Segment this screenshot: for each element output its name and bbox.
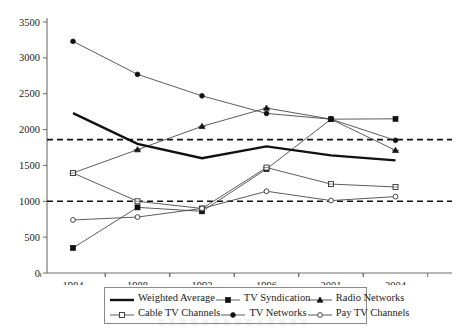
data-point-tv-syndication	[393, 116, 398, 121]
legend-label-tv-syndication: TV Syndication	[244, 292, 311, 304]
legend-swatch-weighted-average	[109, 292, 135, 304]
legend-label-weighted-average: Weighted Average	[138, 292, 215, 304]
y-tick-label: 0	[35, 268, 40, 279]
data-point-pay-tv-channels	[393, 194, 398, 199]
legend-swatch-radio-networks	[307, 292, 333, 304]
legend-label-tv-networks: TV Networks	[249, 307, 306, 319]
data-point-pay-tv-channels	[200, 206, 205, 211]
line-chart-svg: 0500100015002000250030003500198419881992…	[0, 0, 459, 285]
legend-item-pay-tv-channels: Pay TV Channels	[307, 307, 410, 319]
data-point-pay-tv-channels	[264, 189, 269, 194]
y-tick-label: 2500	[19, 88, 40, 99]
data-point-tv-networks	[135, 72, 140, 77]
y-tick-label: 3500	[19, 17, 40, 28]
data-point-tv-networks	[200, 93, 205, 98]
y-tick-label: 1000	[19, 196, 40, 207]
legend-row-1: Weighted Average TV Syndication Radio Ne…	[109, 290, 362, 305]
y-tick-label: 3000	[19, 52, 40, 63]
data-point-tv-syndication	[71, 245, 76, 250]
data-point-tv-networks	[264, 111, 269, 116]
x-tick-label: 1996	[256, 280, 277, 285]
legend-item-weighted-average: Weighted Average	[109, 292, 215, 304]
legend-swatch-tv-syndication	[215, 292, 241, 304]
legend-item-radio-networks: Radio Networks	[307, 292, 405, 304]
series-line-tv-syndication	[73, 119, 396, 248]
data-point-tv-networks	[71, 39, 76, 44]
plot-area: 0500100015002000250030003500198419881992…	[0, 0, 459, 285]
data-point-pay-tv-channels	[71, 218, 76, 223]
x-tick-label: 1992	[192, 280, 213, 285]
data-point-tv-networks	[393, 138, 398, 143]
data-point-pay-tv-channels	[329, 198, 334, 203]
legend-swatch-cable-tv-channels	[109, 307, 135, 319]
y-tick-label: 500	[24, 232, 40, 243]
x-tick-label: 1984	[63, 280, 85, 285]
legend-row-2: Cable TV Channels TV Networks Pay TV Cha…	[109, 305, 362, 320]
data-point-tv-syndication	[135, 205, 140, 210]
series-line-radio-networks	[73, 108, 396, 173]
footer-artifact	[158, 319, 308, 326]
data-point-radio-networks	[393, 147, 399, 152]
data-point-pay-tv-channels	[135, 215, 140, 220]
x-tick-label: 2001	[321, 280, 342, 285]
series-line-weighted-average	[73, 113, 396, 160]
x-tick-label: 1988	[127, 280, 148, 285]
legend-label-pay-tv-channels: Pay TV Channels	[336, 307, 410, 319]
series-line-tv-networks	[73, 41, 396, 140]
data-point-tv-networks	[329, 117, 334, 122]
y-tick-label: 1500	[19, 160, 40, 171]
series-line-pay-tv-channels	[73, 191, 396, 220]
x-tick-label: 2004	[385, 280, 407, 285]
legend-label-radio-networks: Radio Networks	[336, 292, 405, 304]
legend-swatch-tv-networks	[220, 307, 246, 319]
legend-item-cable-tv-channels: Cable TV Channels	[109, 307, 220, 319]
legend-item-tv-syndication: TV Syndication	[215, 292, 307, 304]
legend-swatch-pay-tv-channels	[307, 307, 333, 319]
legend-label-cable-tv-channels: Cable TV Channels	[138, 307, 220, 319]
series-line-cable-tv-channels	[73, 168, 396, 209]
y-tick-label: 2000	[19, 124, 40, 135]
chart-container: 0500100015002000250030003500198419881992…	[0, 0, 459, 332]
legend-item-tv-networks: TV Networks	[220, 307, 306, 319]
